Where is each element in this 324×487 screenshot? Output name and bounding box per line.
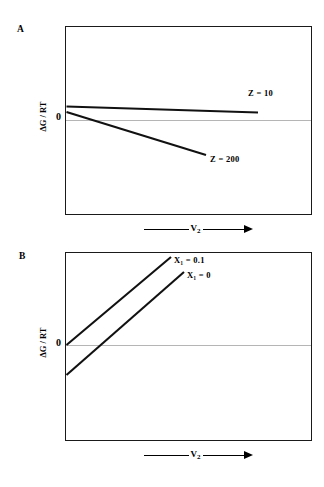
panel-b-x-axis-label-subscript: 2	[197, 453, 201, 461]
panel-b-x-axis-label: V2	[189, 450, 203, 460]
panel-b-x-axis-arrow-icon	[203, 451, 253, 460]
panel-b-x-axis-left-rule	[144, 455, 189, 456]
panel-b-series-line-x1-0p1	[67, 257, 172, 345]
panel-b-x-axis-arrow-head	[244, 451, 253, 459]
panel-b-data-lines	[0, 0, 324, 487]
scientific-figure: A ΔG / RT 0 Z = 10 Z = 200 V2 B ΔG / RT	[0, 0, 324, 487]
panel-b-series-label-x1-0: X₁ = 0	[187, 271, 211, 280]
panel-b-x-axis-arrow-shaft	[203, 455, 244, 456]
panel-b-series-line-x1-0	[67, 272, 185, 375]
panel-b-series-label-x1-0p1: X₁ = 0.1	[174, 256, 205, 265]
panel-b-x-axis: V2	[142, 446, 254, 464]
